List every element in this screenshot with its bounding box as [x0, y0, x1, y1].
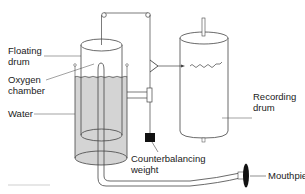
label-line: Water [8, 108, 33, 119]
label-line: drum [253, 102, 296, 113]
label-line: drum [8, 56, 42, 67]
label-floating-drum: Floating drum [8, 45, 42, 67]
label-water: Water [8, 108, 33, 119]
label-oxygen-chamber: Oxygen chamber [8, 74, 45, 96]
guide-bracket [127, 88, 152, 102]
label-line: Recording [253, 91, 296, 102]
label-line: Oxygen [8, 74, 45, 85]
label-mouthpiece: Mouthpiece [248, 170, 305, 181]
label-line: chamber [8, 85, 45, 96]
label-line: Counterbalancing [131, 153, 205, 164]
label-line: Floating [8, 45, 42, 56]
recording-drum [180, 18, 252, 142]
label-counterbalancing-weight: Counterbalancing weight [131, 153, 205, 175]
label-line: weight [131, 164, 205, 175]
label-recording-drum: Recording drum [253, 91, 296, 113]
water-tank [74, 64, 129, 165]
label-line: Mouthpiece [248, 170, 305, 181]
counterbalancing-weight [145, 133, 158, 152]
